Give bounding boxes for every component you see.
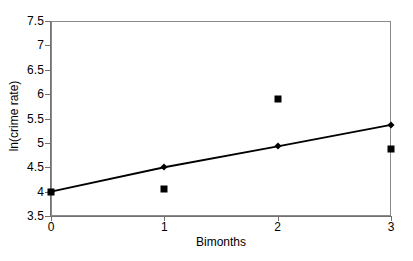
- data-point-observed: [274, 96, 281, 103]
- y-tick-mark: [45, 94, 50, 95]
- y-tick-mark: [45, 45, 50, 46]
- data-point-observed: [388, 145, 395, 152]
- y-tick-mark: [45, 70, 50, 71]
- y-tick-label: 4: [0, 186, 44, 198]
- chart-figure: 3.544.555.566.577.5 0123 Bimonths ln(cri…: [0, 0, 413, 261]
- x-tick-label: 0: [48, 221, 55, 233]
- y-tick-label: 7.5: [0, 15, 44, 27]
- data-point-observed: [161, 185, 168, 192]
- x-axis-line: [51, 216, 392, 217]
- y-tick-label: 4.5: [0, 161, 44, 173]
- y-tick-mark: [45, 119, 50, 120]
- y-tick-mark: [45, 216, 50, 217]
- x-tick-label: 1: [161, 221, 168, 233]
- y-tick-mark: [45, 21, 50, 22]
- y-tick-label: 6.5: [0, 64, 44, 76]
- x-axis-title: Bimonths: [51, 236, 391, 248]
- x-tick-label: 3: [388, 221, 395, 233]
- y-tick-label: 7: [0, 39, 44, 51]
- plot-frame: [51, 21, 391, 216]
- y-tick-label: 3.5: [0, 210, 44, 222]
- y-tick-mark: [45, 143, 50, 144]
- y-tick-mark: [45, 167, 50, 168]
- x-tick-label: 2: [274, 221, 281, 233]
- y-axis-title: ln(crime rate): [8, 56, 20, 176]
